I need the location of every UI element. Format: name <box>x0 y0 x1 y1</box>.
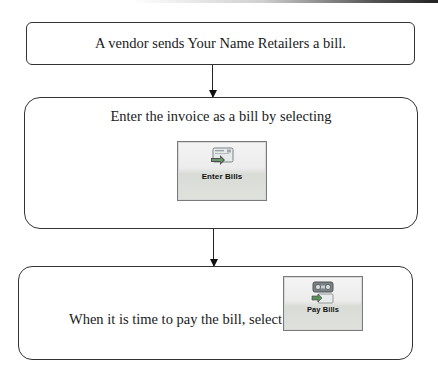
arrow-down-icon <box>213 229 214 266</box>
enter-bills-button[interactable]: Enter Bills <box>177 141 267 201</box>
top-edge-border <box>0 0 438 3</box>
step-box-vendor-sends-bill: A vendor sends Your Name Retailers a bil… <box>26 22 415 65</box>
step-box-pay-bill: When it is time to pay the bill, select … <box>18 266 413 360</box>
step-2-text: Enter the invoice as a bill by selecting <box>25 109 417 124</box>
step-box-enter-bill: Enter the invoice as a bill by selecting… <box>24 97 418 229</box>
step-1-text: A vendor sends Your Name Retailers a bil… <box>27 36 414 51</box>
enter-bills-icon <box>208 146 236 174</box>
arrow-down-icon <box>212 65 213 97</box>
step-3-text: When it is time to pay the bill, select <box>69 312 282 327</box>
enter-bills-label: Enter Bills <box>178 172 266 181</box>
pay-bills-label: Pay Bills <box>284 305 362 314</box>
pay-bills-button[interactable]: Pay Bills <box>283 276 363 331</box>
